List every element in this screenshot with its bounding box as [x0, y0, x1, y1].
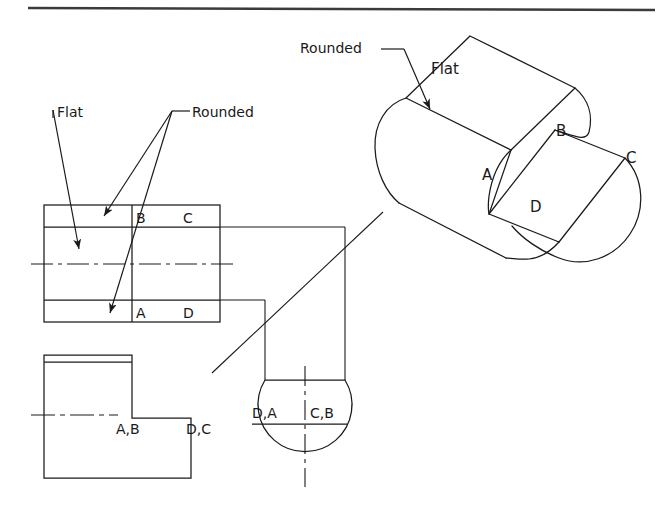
iso-label-a: A	[482, 166, 493, 184]
iso-label-c: C	[626, 149, 636, 167]
header-rule	[28, 8, 655, 10]
top-view-flat-leader	[53, 110, 79, 249]
miter-line	[212, 212, 383, 373]
top-view-label-d: D	[183, 305, 194, 321]
projection-lines	[212, 212, 383, 380]
isometric-solid	[375, 36, 641, 262]
front-view-outline	[44, 355, 191, 478]
top-view-rounded-leader	[104, 111, 190, 313]
technical-drawing-sheet: Flat Rounded A B C D Flat Rounded B C A …	[0, 0, 672, 514]
iso-label-flat: Flat	[431, 60, 459, 78]
iso-label-d: D	[530, 198, 542, 216]
side-view-label-cb: C,B	[310, 405, 334, 421]
front-view-label-dc: D,C	[186, 421, 211, 437]
iso-flat-top-face	[406, 36, 575, 150]
front-view-label-ab: A,B	[116, 421, 140, 437]
iso-left-end-arc-upper	[375, 98, 406, 203]
iso-step-shelf-face	[489, 130, 625, 242]
top-view-label-b: B	[136, 210, 146, 226]
iso-label-rounded: Rounded	[300, 40, 362, 56]
side-view-label-da: D,A	[252, 405, 277, 421]
top-view-label-c: C	[183, 210, 193, 226]
iso-rounded-leader	[381, 49, 430, 109]
front-view-geometry	[44, 355, 191, 478]
top-view-label-a: A	[136, 305, 146, 321]
flat-leader-arrow	[53, 110, 79, 249]
top-view-label-flat: Flat	[57, 104, 84, 120]
rounded-leader-arrow-upper	[104, 111, 172, 216]
drawing-canvas: Flat Rounded A B C D Flat Rounded B C A …	[0, 0, 672, 514]
top-view-label-rounded: Rounded	[192, 104, 254, 120]
iso-label-b: B	[556, 122, 566, 140]
